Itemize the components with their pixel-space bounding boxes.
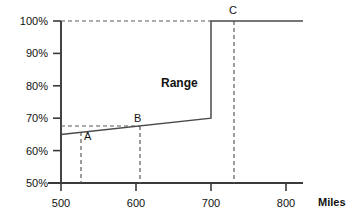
y-tick-label-90: 90% [12, 47, 48, 59]
x-tick-label-500: 500 [52, 197, 70, 209]
data-point-label-c: C [229, 4, 237, 16]
chart-plot-area [0, 0, 363, 224]
y-axis-ticks [53, 21, 61, 183]
y-tick-label-50: 50% [12, 177, 48, 189]
x-tick-label-700: 700 [202, 197, 220, 209]
y-tick-label-60: 60% [12, 145, 48, 157]
x-tick-label-800: 800 [277, 197, 295, 209]
data-point-label-b: B [134, 112, 141, 124]
x-axis-title: Miles [318, 196, 346, 208]
y-tick-label-100: 100% [12, 15, 48, 27]
x-axis-ticks [61, 183, 286, 191]
y-tick-label-80: 80% [12, 80, 48, 92]
series-annotation-range: Range [161, 76, 198, 90]
x-tick-label-600: 600 [127, 197, 145, 209]
y-tick-label-70: 70% [12, 112, 48, 124]
data-point-label-a: A [84, 130, 91, 142]
chart-container: 100% 90% 80% 70% 60% 50% 500 600 700 800… [0, 0, 363, 224]
